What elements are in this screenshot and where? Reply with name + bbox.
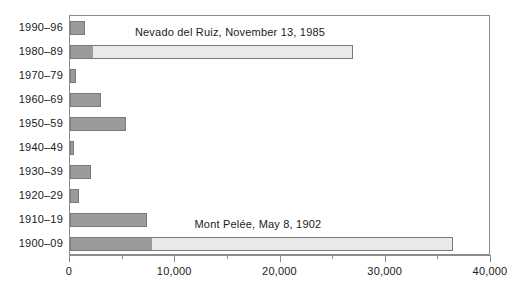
bar-row bbox=[70, 64, 489, 88]
x-axis-tick-minor bbox=[437, 255, 438, 259]
bar-segment-extension bbox=[93, 45, 353, 59]
bar-track bbox=[70, 165, 91, 179]
x-axis: 010,00020,00030,00040,000 bbox=[69, 255, 490, 288]
x-axis-tick-label: 20,000 bbox=[262, 265, 297, 277]
x-axis-tick-major bbox=[385, 255, 386, 262]
x-axis-tick-label: 0 bbox=[66, 265, 72, 277]
bar-segment-base bbox=[70, 189, 79, 203]
bar-row bbox=[70, 136, 489, 160]
annotation-nevado-del-ruiz: Nevado del Ruiz, November 13, 1985 bbox=[135, 26, 325, 38]
y-axis-tick-label: 1940–49 bbox=[0, 135, 63, 159]
bar-segment-base bbox=[70, 117, 126, 131]
x-axis-tick-major bbox=[280, 255, 281, 262]
bar-segment-base bbox=[70, 21, 85, 35]
bar-segment-extension bbox=[152, 237, 453, 251]
bar-row bbox=[70, 232, 489, 256]
x-axis-tick-label: 10,000 bbox=[157, 265, 192, 277]
bar-segment-base bbox=[70, 213, 147, 227]
bar-track bbox=[70, 117, 126, 131]
y-axis-tick-label: 1910–19 bbox=[0, 207, 63, 231]
bar-segment-base bbox=[70, 93, 101, 107]
y-axis-tick-label: 1970–79 bbox=[0, 63, 63, 87]
y-axis-tick-label: 1900–09 bbox=[0, 231, 63, 255]
x-axis-tick-minor bbox=[332, 255, 333, 259]
bar-row bbox=[70, 184, 489, 208]
bar-track bbox=[70, 69, 76, 83]
bar-segment-base bbox=[70, 141, 74, 155]
x-axis-tick-minor bbox=[122, 255, 123, 259]
x-axis-tick-major bbox=[174, 255, 175, 262]
y-axis-tick-label: 1980–89 bbox=[0, 39, 63, 63]
bar-track bbox=[70, 93, 101, 107]
bar-track bbox=[70, 45, 353, 59]
bar-row bbox=[70, 88, 489, 112]
bar-row bbox=[70, 160, 489, 184]
y-axis-tick-label: 1920–29 bbox=[0, 183, 63, 207]
x-axis-tick-major bbox=[490, 255, 491, 262]
bar-segment-base bbox=[70, 165, 91, 179]
bar-track bbox=[70, 237, 453, 251]
x-axis-tick-label: 30,000 bbox=[367, 265, 402, 277]
bar-segment-base bbox=[70, 45, 93, 59]
y-axis-tick-label: 1990–96 bbox=[0, 15, 63, 39]
bar-segment-base bbox=[70, 69, 76, 83]
bar-row bbox=[70, 112, 489, 136]
x-axis-tick-label: 40,000 bbox=[473, 265, 508, 277]
x-axis-tick-minor bbox=[227, 255, 228, 259]
bar-track bbox=[70, 213, 147, 227]
bar-row bbox=[70, 40, 489, 64]
y-axis-tick-label: 1960–69 bbox=[0, 87, 63, 111]
volcano-deaths-bar-chart: 1990–961980–891970–791960–691950–591940–… bbox=[0, 0, 520, 288]
y-axis-tick-label: 1930–39 bbox=[0, 159, 63, 183]
annotation-mont-pelee: Mont Pelée, May 8, 1902 bbox=[194, 218, 321, 230]
y-axis-tick-label: 1950–59 bbox=[0, 111, 63, 135]
bar-track bbox=[70, 189, 79, 203]
bar-segment-base bbox=[70, 237, 152, 251]
bar-track bbox=[70, 21, 85, 35]
bar-track bbox=[70, 141, 74, 155]
y-axis-category-labels: 1990–961980–891970–791960–691950–591940–… bbox=[0, 15, 63, 255]
x-axis-tick-major bbox=[69, 255, 70, 262]
